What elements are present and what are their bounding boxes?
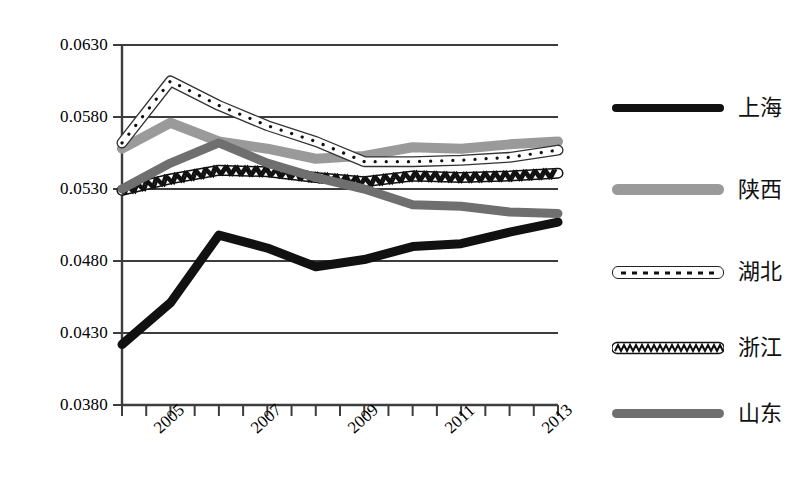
legend-item-2[interactable]: 湖北 — [612, 257, 782, 287]
legend-item-0[interactable]: 上海 — [612, 93, 782, 123]
legend-label-1: 陕西 — [738, 179, 782, 201]
legend-label-0: 上海 — [738, 97, 782, 119]
x-axis-tick-label: 2007 — [247, 400, 286, 438]
legend-key-solid-black-icon — [612, 101, 724, 115]
chart-legend: 上海陕西湖北浙江山东 — [612, 58, 810, 418]
legend-item-4[interactable]: 山东 — [612, 399, 782, 429]
legend-item-3[interactable]: 浙江 — [612, 333, 782, 363]
x-axis-tick-label: 2005 — [150, 400, 189, 438]
x-axis-tick-label: 2013 — [538, 400, 577, 438]
legend-key-solid-mid-gray-icon — [612, 407, 724, 421]
legend-label-4: 山东 — [738, 403, 782, 425]
legend-key-white-dotted-icon — [612, 265, 724, 279]
x-axis-tick-label: 2011 — [441, 401, 479, 438]
legend-key-zigzag-icon — [612, 341, 724, 355]
legend-label-2: 湖北 — [738, 261, 782, 283]
x-axis-tick-label: 2009 — [344, 400, 383, 438]
chart-plot-area: 0.03800.04300.04800.05300.05800.0630 200… — [0, 0, 600, 488]
x-axis-tick-labels: 20052007200920112013 — [0, 0, 600, 488]
chart-page: 0.03800.04300.04800.05300.05800.0630 200… — [0, 0, 810, 488]
legend-label-3: 浙江 — [738, 337, 782, 359]
legend-item-1[interactable]: 陕西 — [612, 175, 782, 205]
legend-key-solid-light-gray-icon — [612, 183, 724, 197]
